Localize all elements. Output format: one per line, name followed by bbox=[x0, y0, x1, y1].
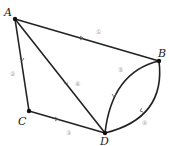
edge-label-5: ⑤ bbox=[118, 66, 123, 73]
vertex-label-A: A bbox=[3, 6, 12, 19]
vertex-label-D: D bbox=[99, 135, 109, 146]
edge-A-B bbox=[15, 19, 159, 61]
edge-label-4: ④ bbox=[142, 119, 147, 126]
graph-diagram: A B C D ① ② ③ ④ ⑤ ⑥ bbox=[0, 0, 169, 146]
edge-B-D-lower bbox=[105, 61, 160, 133]
edge-label-6: ⑥ bbox=[75, 80, 80, 87]
edge-A-D bbox=[15, 19, 105, 133]
graph-svg: A B C D ① ② ③ ④ ⑤ ⑥ bbox=[0, 0, 169, 146]
edge-label-1: ① bbox=[96, 28, 101, 35]
vertex-C bbox=[27, 109, 31, 113]
vertex-label-B: B bbox=[157, 47, 166, 60]
arrow-icon bbox=[140, 108, 143, 112]
edge-label-3: ③ bbox=[66, 129, 71, 136]
vertex-label-C: C bbox=[18, 115, 27, 128]
edge-label-2: ② bbox=[10, 70, 15, 77]
vertex-A bbox=[13, 17, 17, 21]
